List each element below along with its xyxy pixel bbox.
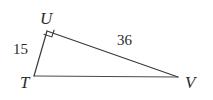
side-length-label-tu: 15 (13, 42, 28, 57)
side-uv-line (47, 31, 178, 77)
vertex-label-v: V (185, 74, 195, 91)
side-tv-line (34, 76, 178, 77)
triangle-drawing (0, 0, 213, 100)
vertex-label-u: U (40, 10, 52, 27)
vertex-label-t: T (20, 74, 29, 91)
side-length-label-uv: 36 (117, 33, 132, 48)
side-tu-line (34, 31, 47, 76)
geometry-figure: U T V 15 36 (0, 0, 213, 100)
